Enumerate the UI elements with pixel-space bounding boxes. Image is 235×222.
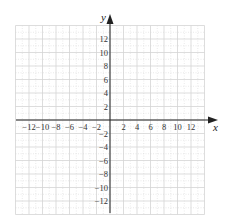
x-tick-label: −4 bbox=[78, 122, 88, 132]
x-tick-label: −6 bbox=[65, 122, 74, 132]
y-axis-arrow-icon bbox=[107, 14, 114, 24]
y-tick-label: −4 bbox=[99, 142, 109, 152]
x-tick-label: 4 bbox=[135, 122, 140, 132]
y-tick-label: −12 bbox=[95, 196, 108, 206]
y-tick-label: −10 bbox=[95, 183, 108, 193]
x-tick-label: 2 bbox=[121, 122, 125, 132]
x-axis-label: x bbox=[212, 121, 218, 133]
y-tick-label: 10 bbox=[100, 48, 109, 58]
y-tick-label: −2 bbox=[99, 129, 108, 139]
x-tick-label: −8 bbox=[51, 122, 60, 132]
y-tick-label: 8 bbox=[104, 61, 108, 71]
y-tick-label: 6 bbox=[104, 75, 108, 85]
x-tick-label: 6 bbox=[148, 122, 152, 132]
coordinate-plane: −12−10−8−6−4−224681012 12108642−2−4−6−8−… bbox=[0, 0, 235, 222]
x-tick-label: 12 bbox=[187, 122, 196, 132]
y-tick-label: 12 bbox=[100, 34, 109, 44]
y-tick-label: −6 bbox=[99, 156, 108, 166]
y-tick-label: 2 bbox=[104, 102, 108, 112]
x-tick-label: 8 bbox=[162, 122, 166, 132]
y-tick-label: −8 bbox=[99, 169, 108, 179]
x-tick-label: −12 bbox=[22, 122, 35, 132]
x-tick-label: −10 bbox=[36, 122, 49, 132]
x-tick-label: 10 bbox=[173, 122, 182, 132]
y-axis-label: y bbox=[100, 11, 106, 23]
